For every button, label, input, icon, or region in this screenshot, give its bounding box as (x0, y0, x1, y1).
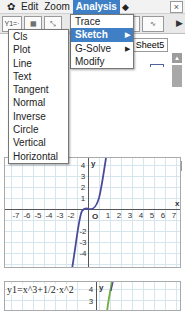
menu-item-inverse[interactable]: Inverse (9, 110, 68, 123)
svg-text:3: 3 (128, 211, 133, 220)
gear-icon[interactable]: ✿ (4, 1, 18, 12)
svg-text:y: y (99, 283, 104, 292)
menu-item-label: G-Solve (75, 43, 111, 54)
graph-window-bottom[interactable]: y1=x^3+1/2·x^2 4 3 y (4, 281, 181, 311)
menu-zoom[interactable]: Zoom (41, 0, 73, 14)
menu-item-horizontal[interactable]: Horizontal (9, 150, 68, 163)
menu-bar: ✿ Edit Zoom Analysis ◆ × (0, 0, 185, 14)
menu-item-plot[interactable]: Plot (9, 43, 68, 56)
line-style-marker[interactable] (150, 64, 164, 67)
menu-item-cls[interactable]: Cls (9, 30, 68, 43)
menu-item-line[interactable]: Line (9, 57, 68, 70)
menu-item-label: Sketch (75, 29, 108, 40)
svg-text:-3: -3 (56, 211, 64, 220)
menu-item-tangent[interactable]: Tangent (9, 83, 68, 96)
svg-text:5: 5 (150, 211, 155, 220)
svg-text:2: 2 (117, 211, 122, 220)
tab-sheet5[interactable]: Sheet5 (132, 38, 168, 52)
svg-text:-4: -4 (79, 249, 87, 258)
menu-item-sketch[interactable]: Sketch▶ (71, 28, 133, 41)
list-scrollbar[interactable]: ▲ ▼ (172, 53, 182, 165)
menu-item-vertical[interactable]: Vertical (9, 136, 68, 149)
panel-gap (0, 268, 185, 280)
graph-canvas: -7-6 -5-4 -3-2 12 34 56 7 O 43 21 -2-3 -… (5, 158, 181, 268)
scroll-thumb[interactable] (172, 65, 182, 87)
menu-item-circle[interactable]: Circle (9, 123, 68, 136)
svg-text:3: 3 (81, 172, 86, 181)
y-tick-3: 3 (89, 297, 94, 306)
diamond-icon[interactable]: ◆ (122, 2, 129, 12)
svg-text:-3: -3 (79, 238, 87, 247)
menu-item-trace[interactable]: Trace (71, 15, 133, 28)
svg-text:O: O (92, 212, 98, 221)
svg-text:7: 7 (172, 211, 177, 220)
svg-text:1: 1 (106, 211, 111, 220)
svg-text:2: 2 (81, 183, 86, 192)
analysis-menu: Trace Sketch▶ G-Solve▶ Modify (70, 14, 134, 69)
svg-text:y: y (91, 159, 96, 168)
svg-text:-2: -2 (79, 227, 87, 236)
svg-text:4: 4 (139, 211, 144, 220)
svg-text:6: 6 (161, 211, 166, 220)
menu-item-normal[interactable]: Normal (9, 96, 68, 109)
svg-text:-7: -7 (12, 211, 20, 220)
svg-text:-4: -4 (45, 211, 53, 220)
svg-text:4: 4 (81, 161, 86, 170)
close-button[interactable]: × (170, 1, 183, 13)
graph-formula: y1=x^3+1/2·x^2 (7, 284, 74, 295)
menu-item-label: Trace (75, 16, 100, 27)
menu-item-g-solve[interactable]: G-Solve▶ (71, 42, 133, 55)
menu-item-modify[interactable]: Modify (71, 55, 133, 68)
toolbar-more-arrow-icon[interactable]: ▶ (176, 18, 183, 28)
svg-text:-2: -2 (67, 211, 75, 220)
menu-analysis[interactable]: Analysis (73, 0, 120, 14)
graph-window-top[interactable]: -7-6 -5-4 -3-2 12 34 56 7 O 43 21 -2-3 -… (4, 157, 181, 268)
svg-text:-5: -5 (34, 211, 42, 220)
sketch-submenu: Cls Plot Line Text Tangent Normal Invers… (8, 29, 69, 164)
menu-item-label: Modify (75, 56, 104, 67)
graph-xy-button[interactable]: ∿ (142, 16, 164, 32)
svg-text:1: 1 (81, 194, 86, 203)
menu-edit[interactable]: Edit (18, 0, 41, 14)
svg-text:-6: -6 (23, 211, 31, 220)
menu-item-text[interactable]: Text (9, 70, 68, 83)
submenu-arrow-icon: ▶ (125, 42, 130, 55)
submenu-arrow-icon: ▶ (125, 28, 130, 41)
scroll-up-icon[interactable]: ▲ (172, 53, 182, 63)
svg-text:x: x (175, 199, 180, 208)
y-tick-4: 4 (89, 285, 94, 294)
